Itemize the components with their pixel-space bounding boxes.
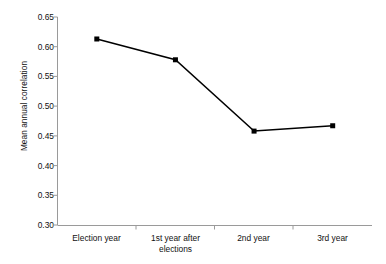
data-point-marker [330,123,335,128]
data-point-marker [94,36,99,41]
x-tick-label-line: 3rd year [293,233,372,244]
x-tick-label-election-year: Election year [57,233,136,244]
x-tick-label-3rd-year: 3rd year [293,233,372,244]
x-tick-marks [136,226,293,230]
plot-area [0,0,386,264]
series-line [97,39,333,131]
data-point-marker [173,57,178,62]
y-tick-marks [54,17,58,225]
x-tick-label-line: elections [136,244,215,255]
line-chart: Mean annual correlation 0.65 0.60 0.55 0… [0,0,386,264]
series-markers [94,36,335,133]
x-tick-label-line: 2nd year [214,233,293,244]
series-mean-annual-correlation [94,36,335,133]
x-tick-label-2nd-year: 2nd year [214,233,293,244]
data-point-marker [252,129,257,134]
x-tick-label-line: 1st year after [136,233,215,244]
x-tick-label-1st-year-after-elections: 1st year after elections [136,233,215,254]
x-tick-label-line: Election year [57,233,136,244]
